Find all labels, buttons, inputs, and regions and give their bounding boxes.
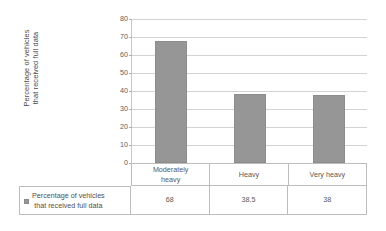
bar: [234, 94, 266, 163]
legend-label-line-2: that received full data: [32, 201, 105, 211]
category-label-line-1: Very heavy: [310, 170, 346, 179]
y-axis-tick-label: 40: [104, 87, 128, 94]
category-cell: Heavy: [210, 163, 288, 186]
value-row: Percentage of vehicles that received ful…: [19, 186, 367, 215]
category-label-line-1: Moderately: [153, 165, 189, 174]
category-cell: Moderatelyheavy: [131, 163, 210, 186]
category-cell: Very heavy: [289, 163, 367, 186]
y-axis-title: Percentage of vehicles that received ful…: [15, 0, 47, 142]
legend-swatch-icon: [24, 199, 29, 204]
category-row: ModeratelyheavyHeavyVery heavy: [19, 163, 367, 186]
table-corner-spacer: [19, 163, 131, 186]
bar-chart-figure: Percentage of vehicles that received ful…: [0, 0, 386, 231]
data-table: ModeratelyheavyHeavyVery heavy Percentag…: [19, 163, 367, 215]
legend-label: Percentage of vehicles that received ful…: [32, 191, 105, 210]
bars-layer: [132, 19, 367, 163]
legend-label-line-1: Percentage of vehicles: [32, 191, 105, 201]
y-axis-tick-labels: 80706050403020100: [104, 14, 128, 167]
y-axis-tick-label: 60: [104, 51, 128, 58]
y-axis-title-line-2: that received full data: [31, 32, 40, 105]
y-axis-tick-label: 30: [104, 105, 128, 112]
value-cell: 68: [131, 186, 210, 215]
bar: [313, 95, 345, 163]
legend-entry: Percentage of vehicles that received ful…: [19, 186, 131, 215]
plot-area: [131, 19, 367, 163]
y-axis-title-line-1: Percentage of vehicles: [22, 30, 31, 107]
y-axis-tick-label: 20: [104, 123, 128, 130]
category-label-line-1: Heavy: [239, 170, 259, 179]
y-axis-tick-label: 10: [104, 141, 128, 148]
category-label-line-2: heavy: [153, 175, 189, 184]
y-axis-tick-label: 80: [104, 15, 128, 22]
value-cell: 38.5: [210, 186, 289, 215]
y-axis-tick-label: 70: [104, 33, 128, 40]
y-axis-tick-label: 50: [104, 69, 128, 76]
value-cell: 38: [288, 186, 367, 215]
bar: [155, 41, 187, 163]
